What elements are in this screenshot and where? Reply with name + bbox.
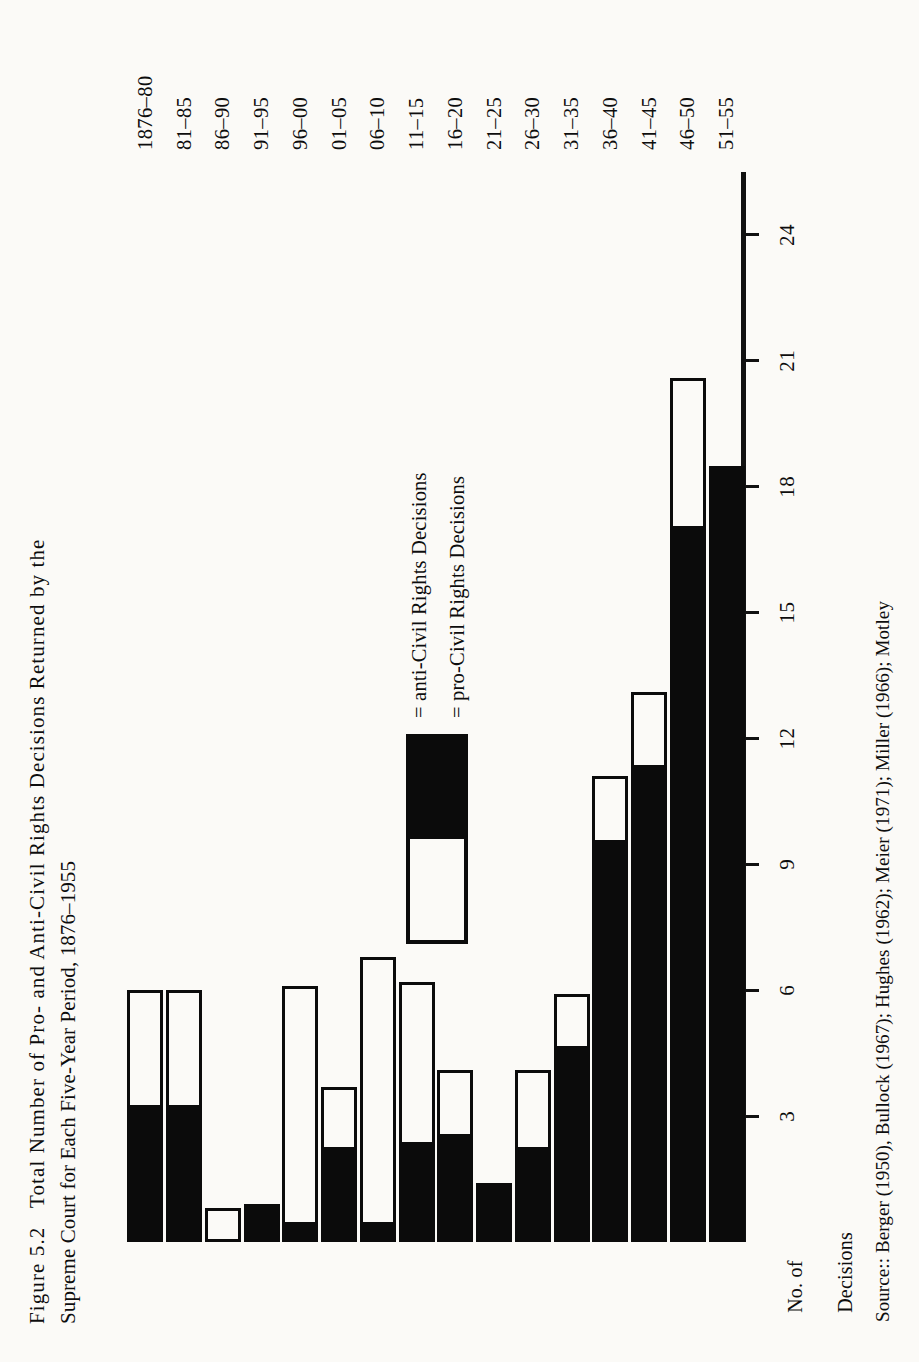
bar-segment-anti (592, 843, 628, 1242)
bar-segment-pro (166, 990, 202, 1107)
bar-segment-pro (515, 1070, 551, 1150)
bar-row (166, 172, 202, 1242)
category-label: 51–55 (715, 97, 738, 150)
legend-swatch-combined (406, 734, 468, 944)
category-label: 01–05 (328, 97, 351, 150)
value-axis-tick (746, 611, 759, 614)
bar-row (631, 172, 667, 1242)
category-label: 41–45 (638, 97, 661, 150)
category-label: 86–90 (211, 97, 234, 150)
value-axis-tick-label: 3 (775, 1086, 800, 1146)
bar-segment-anti (166, 1108, 202, 1242)
value-axis-tick-label: 18 (775, 457, 800, 517)
legend-entry-anti: = anti-Civil Rights Decisions (408, 472, 431, 718)
figure-caption: Figure 5.2 Total Number of Pro- and Anti… (22, 204, 84, 1324)
bar-segment-pro (360, 957, 396, 1226)
category-label: 21–25 (483, 97, 506, 150)
value-axis-tick-label: 9 (775, 834, 800, 894)
bar-segment-pro (631, 692, 667, 768)
value-axis-tick (746, 359, 759, 362)
bar-row (670, 172, 706, 1242)
category-label: 96–00 (289, 97, 312, 150)
category-label: 26–30 (521, 97, 544, 150)
source-note: Source:: Berger (1950), Bullock (1967); … (872, 601, 894, 1322)
bar-segment-anti (127, 1108, 163, 1242)
bar-segment-anti (244, 1204, 280, 1242)
figure-caption-line-1: Figure 5.2 Total Number of Pro- and Anti… (22, 204, 53, 1324)
category-label: 06–10 (366, 97, 389, 150)
bar-row (205, 172, 241, 1242)
figure-page: Figure 5.2 Total Number of Pro- and Anti… (0, 0, 919, 1362)
value-axis-tick (746, 989, 759, 992)
category-label: 36–40 (599, 97, 622, 150)
legend-entry-pro: = pro-Civil Rights Decisions (446, 476, 469, 718)
bar-segment-pro (282, 986, 318, 1225)
value-axis-tick (746, 1115, 759, 1118)
bar-segment-pro (592, 776, 628, 843)
value-axis-tick (746, 863, 759, 866)
bar-row (127, 172, 163, 1242)
bar-segment-anti (437, 1137, 473, 1242)
category-label: 91–95 (250, 97, 273, 150)
bar-segment-pro (127, 990, 163, 1107)
legend-swatch-anti-fill (410, 738, 464, 839)
bar-row (282, 172, 318, 1242)
value-axis-tick-label: 21 (775, 331, 800, 391)
chart-legend: = anti-Civil Rights Decisions = pro-Civi… (406, 544, 536, 944)
bar-segment-anti (399, 1146, 435, 1243)
bar-row (360, 172, 396, 1242)
bar-row (592, 172, 628, 1242)
value-axis-tick (746, 233, 759, 236)
value-axis-tick-label: 6 (775, 960, 800, 1020)
category-label: 46–50 (676, 97, 699, 150)
bar-segment-anti (515, 1150, 551, 1242)
bar-segment-anti (670, 529, 706, 1242)
rotated-page-stage: Figure 5.2 Total Number of Pro- and Anti… (0, 0, 919, 1362)
bar-row (321, 172, 357, 1242)
category-label: 1876–80 (134, 75, 157, 150)
bar-row (244, 172, 280, 1242)
bar-segment-anti (282, 1225, 318, 1242)
bar-segment-pro (554, 994, 590, 1049)
value-axis-tick (746, 737, 759, 740)
bar-segment-pro (437, 1070, 473, 1137)
bar-row (709, 172, 745, 1242)
category-label: 81–85 (173, 97, 196, 150)
value-axis-title: No. of Decisions (758, 1232, 883, 1344)
category-label: 11–15 (405, 98, 428, 151)
bar-segment-pro (670, 378, 706, 529)
value-axis-title-line-1: No. of (784, 1260, 806, 1312)
bar-segment-anti (554, 1049, 590, 1242)
value-axis-tick (746, 485, 759, 488)
bar-segment-anti (360, 1225, 396, 1242)
value-axis-tick-label: 15 (775, 583, 800, 643)
value-axis-tick-label: 24 (775, 205, 800, 265)
bar-segment-pro (321, 1087, 357, 1150)
value-axis-tick-label: 12 (775, 708, 800, 768)
category-label: 16–20 (444, 97, 467, 150)
figure-caption-line-2: Supreme Court for Each Five-Year Period,… (53, 204, 84, 1324)
bar-row (554, 172, 590, 1242)
bar-segment-anti (631, 768, 667, 1242)
bar-segment-pro (205, 1208, 241, 1242)
bar-segment-anti (476, 1183, 512, 1242)
bar-segment-pro (399, 982, 435, 1146)
bar-segment-anti (709, 466, 745, 1242)
bar-segment-anti (321, 1150, 357, 1242)
value-axis-title-line-2: Decisions (834, 1232, 856, 1313)
category-label: 31–35 (560, 97, 583, 150)
